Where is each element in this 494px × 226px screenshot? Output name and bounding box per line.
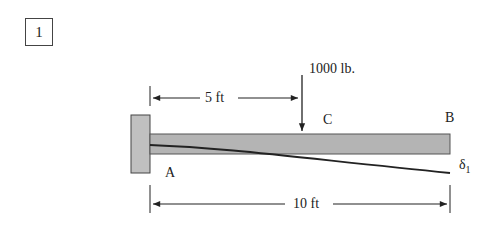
point-label-a: A (165, 166, 175, 180)
deflection-subscript: 1 (466, 164, 471, 175)
deflection-symbol: δ (459, 157, 466, 172)
deflection-label: δ1 (459, 158, 471, 175)
dimension-label-5ft: 5 ft (205, 91, 224, 105)
point-label-c: C (323, 113, 332, 127)
load-label: 1000 lb. (309, 62, 355, 76)
fixed-support-wall (131, 115, 150, 173)
beam-diagram (0, 0, 494, 226)
point-label-b: B (445, 111, 454, 125)
dimension-label-10ft: 10 ft (293, 197, 319, 211)
beam (150, 134, 450, 154)
